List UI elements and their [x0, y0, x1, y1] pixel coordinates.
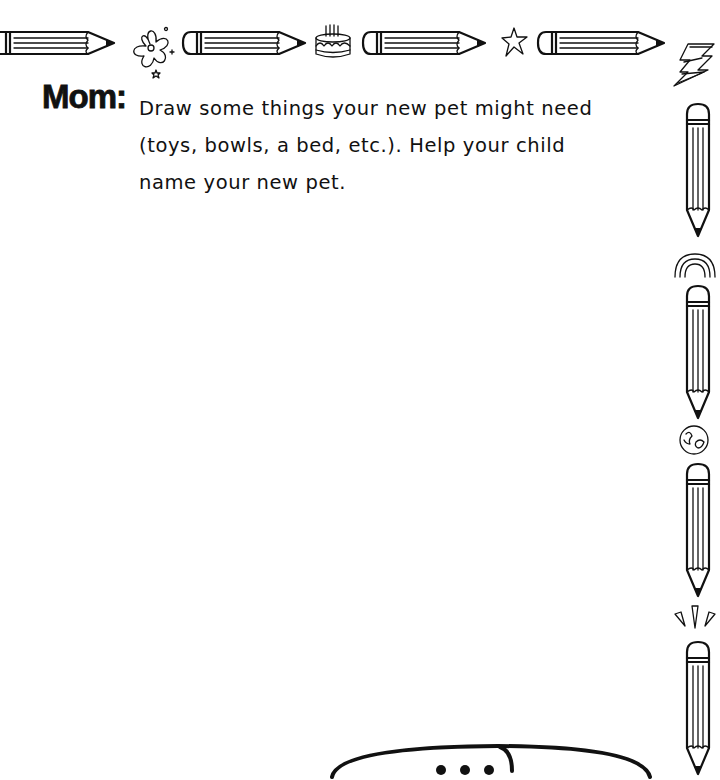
pencil-icon	[361, 28, 493, 58]
border-globe	[678, 424, 710, 456]
border-pencil-horizontal-1	[0, 28, 126, 58]
border-star	[500, 26, 530, 58]
border-pencil-vertical-2	[683, 284, 713, 424]
drawing-area[interactable]	[30, 210, 660, 740]
pencil-icon	[181, 28, 313, 58]
globe-icon	[678, 424, 710, 456]
border-pencil-horizontal-4	[536, 28, 672, 58]
instruction-line-3: name your new pet.	[139, 164, 659, 201]
border-pencil-vertical-4	[683, 640, 713, 780]
border-cake	[314, 24, 354, 60]
star-icon	[500, 26, 530, 58]
speech-bubble-icon	[328, 743, 654, 777]
border-pencil-vertical-3	[683, 462, 713, 602]
lightning-bolt-icon	[668, 42, 718, 88]
border-rainbow	[673, 252, 717, 278]
instruction-line-1: Draw some things your new pet might need	[139, 90, 659, 127]
border-pencil-vertical-1	[683, 102, 713, 242]
border-sparkle-burst	[673, 604, 717, 634]
dot-icon	[484, 765, 494, 775]
instruction-line-2: (toys, bowls, a bed, etc.). Help your ch…	[139, 127, 659, 164]
border-pencil-horizontal-3	[361, 28, 493, 58]
pencil-icon	[683, 462, 713, 602]
pencil-icon	[0, 28, 126, 58]
dot-icon	[460, 765, 470, 775]
border-flower	[128, 24, 176, 78]
border-lightning-bolt	[668, 42, 718, 88]
pencil-icon	[683, 284, 713, 424]
cake-icon	[314, 24, 354, 60]
pencil-icon	[683, 640, 713, 780]
instructions-text: Draw some things your new pet might need…	[139, 90, 659, 201]
sparkle-burst-icon	[673, 604, 717, 634]
flower-icon	[128, 24, 176, 78]
rainbow-icon	[673, 252, 717, 278]
speech-bubble	[328, 743, 654, 777]
prompt-label: Mom:	[42, 78, 126, 116]
border-pencil-horizontal-2	[181, 28, 313, 58]
pencil-icon	[536, 28, 672, 58]
dot-icon	[436, 765, 446, 775]
pencil-icon	[683, 102, 713, 242]
